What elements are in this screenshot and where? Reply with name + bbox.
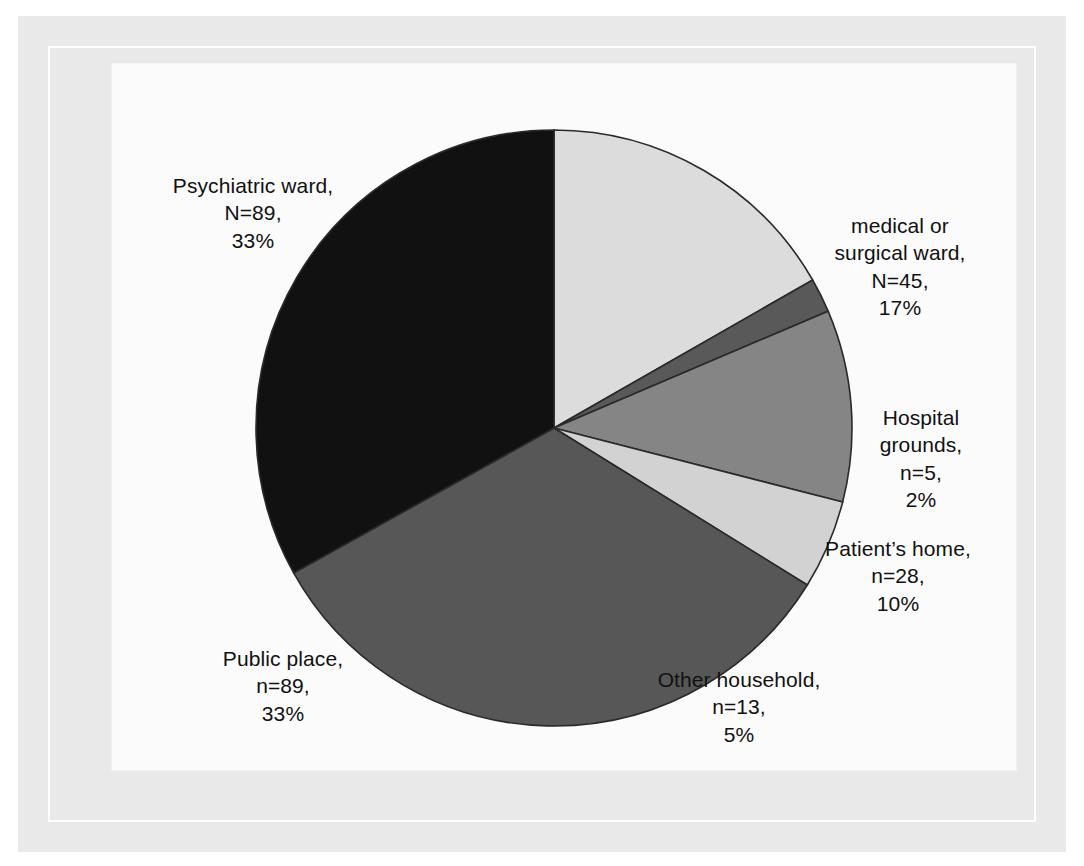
slice-label-line: surgical ward, (786, 239, 1014, 266)
slice-label-hospital-grounds: Hospital grounds, n=5, 2% (838, 404, 1004, 513)
slice-label-line: Public place, (168, 645, 398, 672)
slice-label-line: n=5, (838, 459, 1004, 486)
figure-root: Psychiatric ward, N=89, 33% medical or s… (0, 0, 1084, 866)
slice-label-line: 17% (786, 294, 1014, 321)
slice-label-line: grounds, (838, 431, 1004, 458)
slice-label-line: N=89, (128, 199, 378, 226)
slice-label-line: N=45, (786, 267, 1014, 294)
slice-label-line: 5% (624, 721, 854, 748)
slice-label-line: 2% (838, 486, 1004, 513)
slice-label-line: Hospital (838, 404, 1004, 431)
slice-label-patients-home: Patient’s home, n=28, 10% (782, 535, 1014, 617)
slice-label-line: n=28, (782, 562, 1014, 589)
slice-label-psychiatric-ward: Psychiatric ward, N=89, 33% (128, 172, 378, 254)
slice-label-line: medical or (786, 212, 1014, 239)
slice-label-line: Patient’s home, (782, 535, 1014, 562)
slice-label-line: n=13, (624, 693, 854, 720)
slice-label-line: 33% (168, 700, 398, 727)
slice-label-line: Psychiatric ward, (128, 172, 378, 199)
slice-label-medical-surgical-ward: medical or surgical ward, N=45, 17% (786, 212, 1014, 321)
slice-label-line: n=89, (168, 672, 398, 699)
slice-label-line: Other household, (624, 666, 854, 693)
pie-chart: Psychiatric ward, N=89, 33% medical or s… (0, 0, 1084, 866)
slice-label-public-place: Public place, n=89, 33% (168, 645, 398, 727)
slice-label-other-household: Other household, n=13, 5% (624, 666, 854, 748)
slice-label-line: 10% (782, 590, 1014, 617)
slice-label-line: 33% (128, 227, 378, 254)
